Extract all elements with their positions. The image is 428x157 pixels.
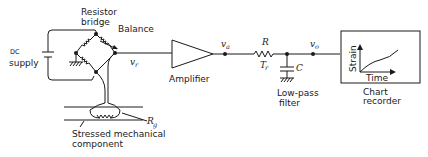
low-pass-filter: R T r C Low-pass filter	[254, 37, 340, 108]
svg-text:Resistor: Resistor	[81, 7, 117, 17]
svg-text:r: r	[135, 61, 139, 69]
svg-text:a: a	[226, 43, 230, 51]
balance-label: Balance	[118, 24, 154, 34]
svg-text:R: R	[261, 37, 269, 47]
resistor-bridge: Resistor bridge	[69, 7, 118, 74]
chart-recorder: Strain Time Chart recorder	[341, 31, 420, 106]
amplifier: Amplifier	[169, 40, 213, 84]
svg-text:g: g	[153, 121, 157, 129]
svg-text:C: C	[296, 63, 303, 73]
svg-text:Low-pass: Low-pass	[277, 88, 319, 98]
svg-text:filter: filter	[279, 98, 300, 108]
svg-text:Time: Time	[365, 73, 388, 83]
svg-text:DC: DC	[10, 48, 20, 56]
svg-text:bridge: bridge	[81, 17, 110, 27]
dc-supply: DC supply	[9, 30, 97, 80]
svg-text:o: o	[315, 43, 319, 51]
strain-gauge-measurement-diagram: DC supply Resistor bridge Balance v r	[0, 0, 428, 157]
svg-text:Strain: Strain	[348, 45, 358, 72]
stressed-component: R g Stressed mechanical component	[64, 107, 165, 149]
svg-text:Amplifier: Amplifier	[169, 74, 210, 84]
svg-text:recorder: recorder	[363, 96, 401, 106]
svg-text:supply: supply	[9, 58, 39, 68]
svg-text:Stressed mechanical: Stressed mechanical	[72, 129, 165, 139]
svg-text:r: r	[265, 64, 269, 72]
svg-text:component: component	[72, 139, 123, 149]
